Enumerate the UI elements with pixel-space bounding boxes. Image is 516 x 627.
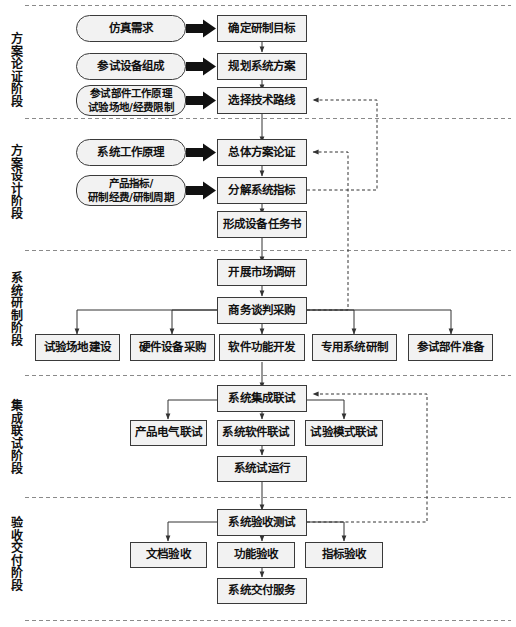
input-simulation-requirements[interactable]: 仿真需求: [76, 15, 186, 42]
conn-s19-s20: [168, 522, 217, 541]
phase-label-3: 系 统 研 制 阶 段: [9, 272, 25, 348]
conn-s14-s17: [307, 400, 344, 419]
input-4-label: 系统工作原理: [97, 146, 164, 160]
step-function-acceptance[interactable]: 功能验收: [217, 542, 295, 568]
block-arrow-1: [186, 20, 216, 38]
conn-s14-s15: [168, 400, 217, 419]
step-8-label: 商务谈判采购: [228, 304, 295, 318]
phase-2-char-0: 方: [9, 145, 25, 158]
block-arrows: [186, 20, 216, 200]
step-form-equipment-task-book[interactable]: 形成设备任务书: [217, 211, 307, 238]
step-test-component-preparation[interactable]: 参试部件准备: [408, 334, 493, 361]
block-arrow-4: [186, 144, 216, 162]
phase-4-char-2: 联: [9, 425, 25, 438]
conn-s19-s22: [307, 522, 344, 541]
conn-s8-s12: [307, 310, 354, 334]
block-arrow-2: [186, 58, 216, 76]
input-1-label: 仿真需求: [109, 22, 154, 36]
step-3-label: 选择技术路线: [228, 94, 295, 108]
step-system-trial-run[interactable]: 系统试运行: [217, 456, 307, 482]
input-5-label-line2: 研制经费/研制周期: [88, 191, 174, 204]
step-system-delivery-service[interactable]: 系统交付服务: [217, 578, 307, 604]
phase-3-char-5: 段: [9, 335, 25, 348]
step-16-label: 系统软件联试: [222, 426, 289, 440]
step-21-label: 功能验收: [234, 548, 279, 562]
conn-s8-s10: [172, 310, 217, 334]
flowchart-canvas: 方 案 论 证 阶 段 方 案 设 计 阶 段 系 统 研 制 阶 段 集 成 …: [0, 0, 516, 627]
step-business-negotiation-procurement[interactable]: 商务谈判采购: [217, 297, 307, 324]
step-6-label: 形成设备任务书: [223, 218, 301, 232]
step-system-integration-test[interactable]: 系统集成联试: [217, 385, 307, 412]
phase-3-char-0: 系: [9, 272, 25, 285]
step-23-label: 系统交付服务: [228, 584, 295, 598]
phase-2-char-5: 段: [9, 208, 25, 221]
step-20-label: 文档验收: [146, 548, 191, 562]
step-plan-system-scheme[interactable]: 规划系统方案: [217, 53, 307, 80]
step-9-label: 试验场地建设: [44, 341, 111, 355]
phase-1-char-5: 段: [9, 96, 25, 109]
input-3-label-line1: 参试部件工作原理: [90, 87, 172, 100]
step-10-label: 硬件设备采购: [139, 341, 206, 355]
phase-label-2: 方 案 设 计 阶 段: [9, 145, 25, 221]
conn-s8-s9: [77, 310, 217, 334]
step-hardware-equipment-procurement[interactable]: 硬件设备采购: [130, 334, 215, 361]
step-17-label: 试验模式联试: [310, 426, 377, 440]
block-arrow-3: [186, 92, 216, 110]
step-4-label: 总体方案论证: [228, 146, 295, 160]
conn-s8-s13: [307, 310, 451, 334]
step-determine-development-goal[interactable]: 确定研制目标: [217, 15, 307, 42]
step-1-label: 确定研制目标: [228, 22, 295, 36]
phase-2-char-2: 设: [9, 170, 25, 183]
input-2-label: 参试设备组成: [97, 60, 164, 74]
phase-4-char-0: 集: [9, 400, 25, 413]
feedback-s19-to-s14: [307, 394, 427, 522]
phase-5-char-5: 段: [9, 580, 25, 593]
step-document-acceptance[interactable]: 文档验收: [130, 542, 207, 568]
phase-5-char-0: 验: [9, 517, 25, 530]
step-19-label: 系统验收测试: [228, 516, 295, 530]
step-22-label: 指标验收: [322, 548, 367, 562]
step-2-label: 规划系统方案: [228, 60, 295, 74]
step-18-label: 系统试运行: [234, 462, 290, 476]
step-test-site-construction[interactable]: 试验场地建设: [35, 334, 120, 361]
input-product-index-budget-cycle[interactable]: 产品指标/ 研制经费/研制周期: [76, 175, 186, 206]
step-software-function-development[interactable]: 软件功能开发: [219, 334, 305, 361]
step-14-label: 系统集成联试: [228, 392, 295, 406]
step-product-electrical-test[interactable]: 产品电气联试: [130, 420, 207, 446]
phase-1-char-0: 方: [9, 33, 25, 46]
phase-label-4: 集 成 联 试 阶 段: [9, 400, 25, 476]
phase-3-char-2: 研: [9, 297, 25, 310]
step-5-label: 分解系统指标: [228, 184, 295, 198]
step-11-label: 软件功能开发: [228, 341, 295, 355]
step-7-label: 开展市场调研: [228, 266, 295, 280]
phase-label-1: 方 案 论 证 阶 段: [9, 33, 25, 109]
step-test-mode-joint-test[interactable]: 试验模式联试: [305, 420, 383, 446]
step-select-technical-route[interactable]: 选择技术路线: [217, 87, 307, 114]
step-index-acceptance[interactable]: 指标验收: [305, 542, 383, 568]
block-arrow-5: [186, 182, 216, 200]
input-component-principles-site-budget[interactable]: 参试部件工作原理 试验场地/经费限制: [76, 85, 186, 116]
step-market-research[interactable]: 开展市场调研: [217, 259, 307, 286]
phase-4-char-5: 段: [9, 463, 25, 476]
input-3-label-line2: 试验场地/经费限制: [88, 101, 174, 114]
feedback-s8-to-s4: [307, 152, 348, 310]
step-decompose-system-index[interactable]: 分解系统指标: [217, 177, 307, 204]
step-special-system-development[interactable]: 专用系统研制: [312, 334, 397, 361]
input-5-label-line1: 产品指标/: [109, 177, 154, 190]
input-test-equipment-composition[interactable]: 参试设备组成: [76, 53, 186, 80]
phase-label-5: 验 收 交 付 阶 段: [9, 517, 25, 593]
input-system-working-principle[interactable]: 系统工作原理: [76, 139, 186, 166]
feedback-s5-to-s3: [307, 100, 377, 190]
phase-1-char-2: 论: [9, 58, 25, 71]
step-15-label: 产品电气联试: [135, 426, 202, 440]
feedback-connectors: [307, 100, 427, 522]
step-system-acceptance-test[interactable]: 系统验收测试: [217, 509, 307, 536]
step-system-software-test[interactable]: 系统软件联试: [217, 420, 295, 446]
step-12-label: 专用系统研制: [321, 341, 388, 355]
phase-5-char-2: 交: [9, 542, 25, 555]
step-13-label: 参试部件准备: [417, 341, 484, 355]
step-overall-scheme-demonstration[interactable]: 总体方案论证: [217, 139, 307, 166]
